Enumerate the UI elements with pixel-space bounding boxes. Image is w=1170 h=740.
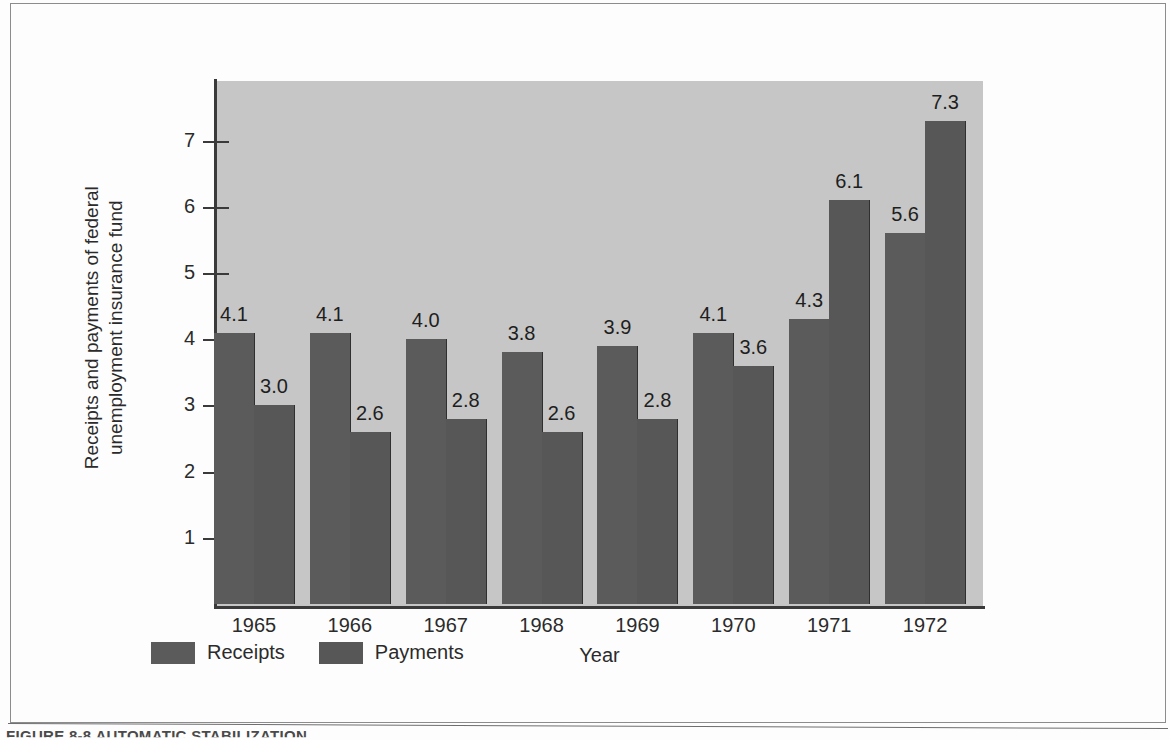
bar-value-label: 3.0	[260, 375, 288, 398]
legend-label: Payments	[375, 641, 464, 664]
legend-swatch-payments	[319, 642, 363, 664]
bar-value-label: 2.8	[644, 389, 672, 412]
bar-receipts-1969	[597, 346, 638, 604]
bar-value-label: 3.9	[604, 316, 632, 339]
x-axis-tick-label-1969: 1969	[592, 614, 682, 637]
bar-payments-1969	[637, 419, 678, 604]
bar-receipts-1968	[502, 352, 543, 604]
legend-label: Receipts	[207, 641, 285, 664]
x-axis-tick-label-1965: 1965	[209, 614, 299, 637]
x-axis-tick-label-1972: 1972	[880, 614, 970, 637]
bar-value-label: 2.6	[356, 402, 384, 425]
x-axis-tick-label-1967: 1967	[401, 614, 491, 637]
bar-value-label: 4.1	[220, 303, 248, 326]
y-axis-tick-label: 1	[155, 526, 195, 549]
chart-legend: ReceiptsPayments	[151, 641, 464, 664]
bar-payments-1972	[925, 121, 966, 604]
bar-payments-1967	[446, 419, 487, 604]
bar-payments-1966	[350, 432, 391, 604]
bar-value-label: 7.3	[931, 91, 959, 114]
bar-receipts-1971	[789, 319, 830, 604]
figure-frame: 1234567 4.13.019654.12.619664.02.819673.…	[10, 3, 1166, 723]
x-axis-tick-label-1966: 1966	[305, 614, 395, 637]
bar-value-label: 5.6	[891, 203, 919, 226]
bar-receipts-1967	[406, 339, 447, 604]
y-axis-tick-label: 2	[155, 460, 195, 483]
y-axis-title: Receipts and payments of federal unemplo…	[80, 158, 128, 498]
bar-value-label: 6.1	[835, 170, 863, 193]
figure-caption: FIGURE 8-8 AUTOMATIC STABILIZATION	[6, 727, 307, 740]
bar-receipts-1966	[310, 333, 351, 604]
y-axis-tick-label: 3	[155, 393, 195, 416]
legend-item-payments: Payments	[319, 641, 464, 664]
bar-payments-1965	[254, 405, 295, 604]
x-axis-tick-label-1970: 1970	[688, 614, 778, 637]
bar-payments-1970	[733, 366, 774, 604]
x-axis-tick-label-1968: 1968	[497, 614, 587, 637]
y-axis-tick-label: 4	[155, 327, 195, 350]
y-axis-tick	[203, 207, 229, 209]
y-axis-tick	[203, 141, 229, 143]
x-axis-tick-label-1971: 1971	[784, 614, 874, 637]
bar-value-label: 2.6	[548, 402, 576, 425]
bar-receipts-1965	[214, 333, 255, 604]
bar-payments-1968	[542, 432, 583, 604]
y-axis-tick-label: 7	[155, 129, 195, 152]
bar-receipts-1970	[693, 333, 734, 604]
bar-value-label: 3.8	[508, 322, 536, 345]
bar-value-label: 4.1	[316, 303, 344, 326]
y-axis-ticks: 1234567	[11, 4, 1167, 724]
bar-value-label: 4.1	[699, 303, 727, 326]
y-axis-tick-label: 5	[155, 261, 195, 284]
bar-value-label: 2.8	[452, 389, 480, 412]
y-axis-tick	[203, 273, 229, 275]
legend-item-receipts: Receipts	[151, 641, 285, 664]
bar-payments-1971	[829, 200, 870, 604]
bar-value-label: 4.3	[795, 289, 823, 312]
bar-value-label: 3.6	[739, 336, 767, 359]
bar-value-label: 4.0	[412, 309, 440, 332]
legend-swatch-receipts	[151, 642, 195, 664]
bar-receipts-1972	[885, 233, 926, 604]
y-axis-tick-label: 6	[155, 195, 195, 218]
